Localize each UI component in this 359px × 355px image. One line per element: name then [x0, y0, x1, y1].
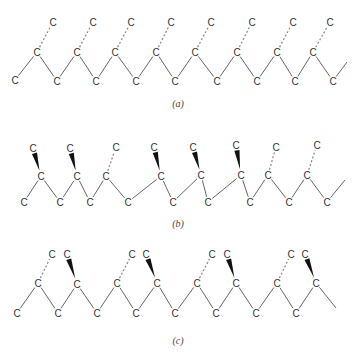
panel-atactic: CCCCCCCCCCCCCCCCCCCCCCCC [13, 249, 336, 319]
carbon-atom: C [171, 76, 178, 87]
carbon-atom: C [197, 170, 204, 181]
carbon-atom: C [124, 197, 131, 208]
hashed-bond [40, 27, 51, 47]
backbone-bond [177, 179, 197, 198]
carbon-atom: C [127, 17, 134, 28]
backbone-bond [178, 287, 193, 308]
wedge-bond [305, 258, 315, 278]
caption-b: (b) [172, 218, 184, 230]
backbone-bond [243, 180, 249, 197]
backbone-bond [61, 289, 74, 309]
carbon-atom: C [112, 142, 119, 153]
backbone-bond [260, 57, 274, 77]
carbon-atom: C [232, 278, 239, 289]
carbon-atom: C [193, 278, 200, 289]
backbone-bond [20, 288, 35, 309]
carbon-atom: C [303, 170, 310, 181]
carbon-atom: C [56, 197, 63, 208]
backbone-bond [253, 180, 265, 198]
carbon-atom: C [86, 197, 93, 208]
carbon-atom: C [329, 76, 336, 87]
carbon-atom: C [13, 308, 20, 319]
carbon-atom: C [289, 17, 296, 28]
carbon-atom: C [169, 197, 176, 208]
backbone-bond [319, 287, 336, 308]
carbon-atom: C [207, 17, 214, 28]
carbon-atom: C [292, 308, 299, 319]
carbon-atom: C [111, 47, 118, 58]
backbone-bond [44, 180, 57, 197]
carbon-atom: C [204, 197, 211, 208]
backbone-bond [132, 179, 156, 198]
backbone-bond [271, 179, 285, 197]
carbon-atom: C [73, 47, 80, 58]
backbone-bond [118, 56, 133, 76]
backbone-bond [280, 288, 293, 309]
hashed-bond [108, 152, 114, 171]
hashed-bond [200, 259, 210, 278]
carbon-atom: C [212, 308, 219, 319]
carbon-atom: C [309, 47, 316, 58]
backbone-bond [120, 288, 133, 309]
carbon-atom: C [34, 278, 41, 289]
backbone-bond [60, 57, 74, 77]
carbon-atom: C [248, 17, 255, 28]
carbon-atom: C [246, 197, 253, 208]
backbone-bond [139, 57, 153, 77]
hashed-bond [309, 150, 316, 170]
carbon-atom: C [323, 197, 330, 208]
wedge-bond [153, 152, 160, 171]
carbon-atom: C [253, 76, 260, 87]
carbon-atom: C [233, 47, 240, 58]
carbon-atom: C [313, 140, 320, 151]
hashed-bond [198, 27, 209, 47]
backbone-bond [220, 57, 234, 77]
carbon-atom: C [49, 17, 56, 28]
backbone-bond [139, 288, 154, 309]
wedge-bond [146, 258, 156, 278]
backbone-bond [198, 56, 213, 76]
carbon-atom: C [63, 249, 70, 260]
hashed-bond [316, 27, 328, 47]
backbone-bond [100, 288, 114, 309]
hashed-bond [239, 27, 249, 47]
carbon-atom: C [208, 249, 215, 260]
backbone-bond [200, 288, 213, 309]
carbon-atom: C [232, 140, 239, 151]
carbon-atom: C [171, 308, 178, 319]
wedge-bond [226, 258, 234, 277]
carbon-atom: C [287, 249, 294, 260]
backbone-bond [41, 288, 55, 309]
carbon-atom: C [89, 17, 96, 28]
backbone-bond [259, 288, 274, 309]
backbone-bond [212, 178, 236, 198]
carbon-atom: C [20, 197, 27, 208]
carbon-atom: C [113, 278, 120, 289]
backbone-bond [40, 57, 54, 77]
carbon-atom: C [237, 170, 244, 181]
backbone-bond [80, 289, 94, 309]
backbone-bond [219, 288, 233, 309]
carbon-atom: C [326, 17, 333, 28]
carbon-atom: C [102, 171, 109, 182]
carbon-atom: C [301, 249, 308, 260]
carbon-atom: C [285, 197, 292, 208]
carbon-atom: C [53, 76, 60, 87]
carbon-atom: C [73, 171, 80, 182]
backbone-bond [18, 56, 33, 75]
backbone-bond [239, 288, 253, 309]
panel-syndiotactic: CCCCCCCCCCCCCCCCCCCCCCCCC [20, 140, 345, 208]
hashed-bond [279, 259, 288, 278]
backbone-bond [336, 62, 347, 77]
carbon-atom: C [73, 279, 80, 290]
carbon-atom: C [252, 308, 259, 319]
carbon-atom: C [189, 142, 196, 153]
carbon-atom: C [264, 170, 271, 181]
wedge-bond [192, 152, 199, 170]
backbone-bond [280, 57, 292, 77]
caption-a: (a) [172, 98, 184, 110]
backbone-bond [310, 179, 323, 197]
backbone-bond [316, 57, 330, 77]
backbone-bond [163, 181, 170, 197]
carbon-atom: C [291, 76, 298, 87]
